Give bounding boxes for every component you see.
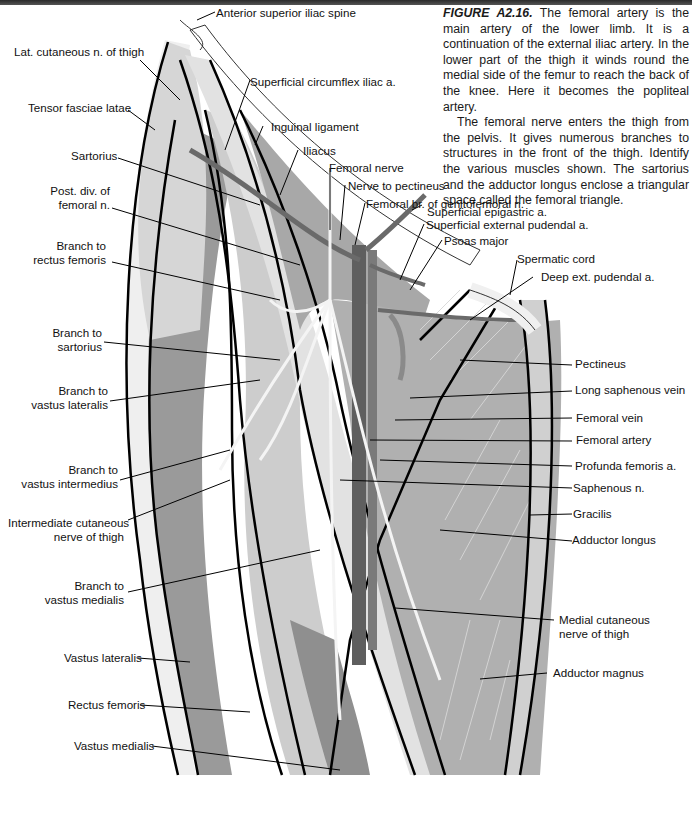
label-post-div-femoral-n: Post. div. offemoral n. xyxy=(20,184,110,211)
label-pectineus: Pectineus xyxy=(575,357,626,371)
label-sartorius: Sartorius xyxy=(71,149,117,163)
label-superficial-external-pudendal-a: Superficial external pudendal a. xyxy=(426,218,588,232)
label-branch-vastus-lateralis: Branch tovastus lateralis xyxy=(10,384,108,411)
label-branch-rectus-femoris: Branch torectus femoris xyxy=(10,239,106,266)
label-adductor-longus: Adductor longus xyxy=(572,533,656,547)
label-nerve-to-pectineus: Nerve to pectineus xyxy=(348,179,445,193)
label-long-saphenous-vein: Long saphenous vein xyxy=(575,383,685,397)
label-superficial-circumflex-iliac-a: Superficial circumflex iliac a. xyxy=(250,75,396,89)
label-deep-ext-pudendal-a: Deep ext. pudendal a. xyxy=(541,270,654,284)
label-femoral-artery: Femoral artery xyxy=(576,433,651,447)
label-psoas-major: Psoas major xyxy=(444,234,508,248)
label-vastus-medialis: Vastus medialis xyxy=(74,739,154,753)
label-femoral-nerve: Femoral nerve xyxy=(329,161,404,175)
label-adductor-magnus: Adductor magnus xyxy=(553,666,644,680)
femoral-artery-shape xyxy=(368,250,377,650)
label-branch-vastus-intermedius: Branch tovastus intermedius xyxy=(10,463,118,490)
label-spermatic-cord: Spermatic cord xyxy=(517,252,595,266)
label-femoral-vein: Femoral vein xyxy=(576,411,643,425)
label-profunda-femoris-a: Profunda femoris a. xyxy=(575,459,676,473)
femoral-vein-shape xyxy=(352,245,366,665)
label-saphenous-n: Saphenous n. xyxy=(573,481,645,495)
label-intermediate-cutaneous-nerve: Intermediate cutaneousnerve of thigh xyxy=(8,516,124,543)
label-superficial-epigastric-a: Superficial epigastric a. xyxy=(427,205,547,219)
label-anterior-superior-iliac-spine: Anterior superior iliac spine xyxy=(216,6,356,20)
label-inguinal-ligament: Inguinal ligament xyxy=(271,120,359,134)
label-lat-cutaneous-n-thigh: Lat. cutaneous n. of thigh xyxy=(14,45,144,59)
label-branch-vastus-medialis: Branch tovastus medialis xyxy=(10,579,124,606)
label-vastus-lateralis: Vastus lateralis xyxy=(64,651,142,665)
tensor-fasciae-latae-shape xyxy=(138,42,206,340)
label-medial-cutaneous-nerve: Medial cutaneousnerve of thigh xyxy=(559,613,650,640)
label-rectus-femoris: Rectus femoris xyxy=(68,698,145,712)
label-branch-sartorius: Branch tosartorius xyxy=(10,326,102,353)
label-gracilis: Gracilis xyxy=(573,507,612,521)
label-iliacus: Iliacus xyxy=(303,144,336,158)
label-tensor-fasciae-latae: Tensor fasciae latae xyxy=(28,101,131,115)
